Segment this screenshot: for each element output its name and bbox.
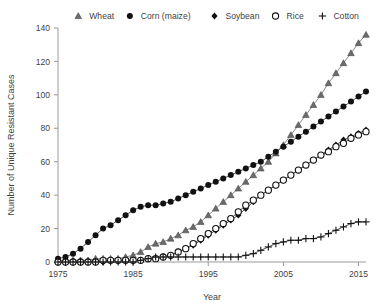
series-point-cotton: [205, 253, 212, 260]
legend-item-wheat[interactable]: Wheat: [75, 11, 115, 21]
series-point-cotton: [310, 235, 317, 242]
legend-label: Corn (maize): [141, 11, 191, 21]
series-point-wheat: [175, 232, 182, 238]
y-tick-label: 60: [40, 157, 50, 167]
series-point-corn-maize: [70, 251, 76, 257]
series-point-corn-maize: [273, 149, 279, 155]
legend-item-soybean[interactable]: Soybean: [211, 11, 259, 21]
series-point-corn-maize: [235, 169, 241, 175]
series-point-cotton: [235, 253, 242, 260]
series-point-corn-maize: [250, 162, 256, 168]
series-line-soybean: [58, 130, 366, 262]
series-point-corn-maize: [333, 109, 339, 115]
x-tick-label: 1975: [48, 269, 67, 279]
legend-item-corn-maize[interactable]: Corn (maize): [127, 11, 191, 21]
series-point-rice: [288, 172, 294, 178]
series-line-corn-maize: [58, 92, 366, 259]
legend-label: Wheat: [89, 11, 114, 21]
x-tick-label: 2005: [274, 269, 293, 279]
series-point-rice: [333, 144, 339, 150]
series-point-rice: [280, 177, 286, 183]
series-point-corn-maize: [220, 175, 226, 181]
series-point-wheat: [363, 31, 370, 37]
series-point-cotton: [332, 227, 339, 234]
series-point-corn-maize: [348, 99, 354, 105]
legend-marker-icon: [127, 13, 133, 19]
y-tick-label: 80: [40, 123, 50, 133]
legend-item-rice[interactable]: Rice: [272, 11, 304, 21]
series-point-cotton: [362, 218, 369, 225]
legend-marker-icon: [319, 12, 326, 19]
y-tick-label: 140: [36, 23, 51, 33]
series-point-corn-maize: [310, 124, 316, 130]
series-point-corn-maize: [243, 165, 249, 171]
series-rice: [55, 129, 369, 266]
series-point-corn-maize: [175, 195, 181, 201]
series-corn-maize: [55, 89, 369, 262]
x-axis-title: Year: [203, 292, 221, 302]
resistant-cases-line-chart: WheatCorn (maize)SoybeanRiceCotton020406…: [0, 0, 379, 307]
series-point-corn-maize: [295, 134, 301, 140]
series-soybean: [55, 127, 369, 266]
series-point-rice: [243, 202, 249, 208]
series-point-corn-maize: [78, 246, 84, 252]
series-point-rice: [363, 129, 369, 135]
series-point-rice: [213, 225, 219, 231]
series-point-corn-maize: [123, 212, 129, 218]
legend-marker-icon: [272, 13, 278, 19]
y-axis-title: Number of Unique Resistant Cases: [6, 74, 16, 216]
series-point-corn-maize: [115, 217, 121, 223]
series-point-cotton: [182, 253, 189, 260]
series-point-rice: [265, 187, 271, 193]
y-tick-label: 40: [40, 190, 50, 200]
series-point-rice: [258, 192, 264, 198]
series-point-wheat: [137, 249, 144, 255]
legend-label: Rice: [287, 11, 304, 21]
series-point-corn-maize: [213, 179, 219, 185]
series-point-corn-maize: [160, 201, 166, 207]
series-point-corn-maize: [258, 159, 264, 165]
series-point-rice: [183, 246, 189, 252]
series-point-corn-maize: [355, 94, 361, 100]
chart-container: WheatCorn (maize)SoybeanRiceCotton020406…: [0, 0, 379, 307]
series-point-wheat: [190, 224, 197, 230]
y-tick-label: 20: [40, 224, 50, 234]
series-point-rice: [340, 140, 346, 146]
series-point-wheat: [182, 227, 189, 233]
series-point-wheat: [145, 244, 152, 250]
series-point-rice: [273, 182, 279, 188]
series-point-rice: [250, 197, 256, 203]
series-point-cotton: [272, 240, 279, 247]
series-point-corn-maize: [205, 182, 211, 188]
series-point-cotton: [355, 218, 362, 225]
series-point-corn-maize: [145, 202, 151, 208]
series-point-rice: [318, 152, 324, 158]
series-line-rice: [58, 132, 366, 262]
series-point-corn-maize: [265, 154, 271, 160]
series-point-rice: [198, 236, 204, 242]
legend-item-cotton[interactable]: Cotton: [319, 11, 359, 21]
series-point-corn-maize: [153, 202, 159, 208]
series-point-corn-maize: [198, 185, 204, 191]
series-point-rice: [303, 162, 309, 168]
series-point-cotton: [325, 230, 332, 237]
series-point-corn-maize: [183, 192, 189, 198]
series-point-rice: [228, 215, 234, 221]
series-point-rice: [190, 241, 196, 247]
series-point-corn-maize: [108, 222, 114, 228]
series-point-cotton: [302, 235, 309, 242]
series-point-corn-maize: [303, 129, 309, 135]
series-point-corn-maize: [280, 144, 286, 150]
series-point-cotton: [242, 252, 249, 259]
series-point-wheat: [167, 235, 174, 241]
series-point-rice: [220, 220, 226, 226]
series-point-cotton: [295, 237, 302, 244]
legend-label: Cotton: [333, 11, 359, 21]
series-point-cotton: [280, 238, 287, 245]
y-tick-label: 100: [36, 90, 51, 100]
series-point-corn-maize: [85, 239, 91, 245]
series-point-corn-maize: [318, 119, 324, 125]
series-point-corn-maize: [190, 189, 196, 195]
series-point-cotton: [347, 220, 354, 227]
series-point-cotton: [265, 243, 272, 250]
